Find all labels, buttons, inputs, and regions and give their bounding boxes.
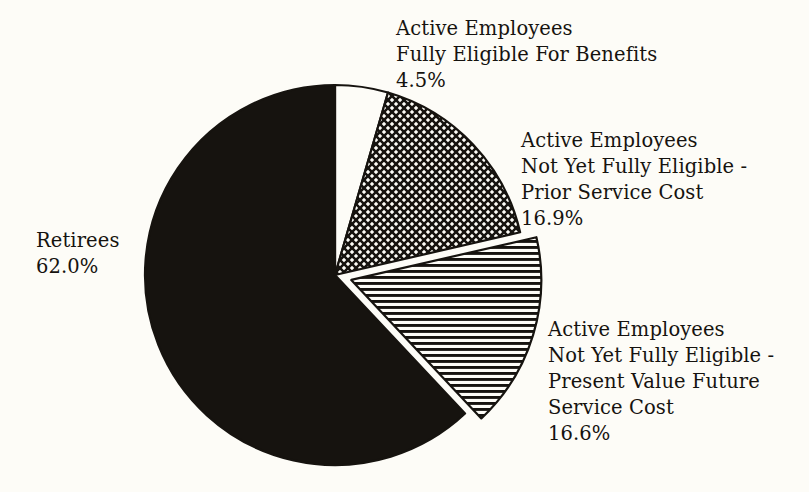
slice-label-prior-service-cost: Active Employees Not Yet Fully Eligible … <box>521 128 747 232</box>
slice-value: 4.5% <box>396 68 657 94</box>
slice-label-line: Prior Service Cost <box>521 180 747 206</box>
slice-label-line: Active Employees <box>521 128 747 154</box>
slice-label-retirees: Retirees 62.0% <box>36 228 120 280</box>
slice-label-line: Active Employees <box>396 16 657 42</box>
slice-label-line: Active Employees <box>548 317 774 343</box>
slice-value: 16.6% <box>548 421 774 447</box>
slice-label-line: Fully Eligible For Benefits <box>396 42 657 68</box>
slice-label-line: Service Cost <box>548 395 774 421</box>
slice-label-fully-eligible: Active Employees Fully Eligible For Bene… <box>396 16 657 94</box>
slice-label-line: Present Value Future <box>548 369 774 395</box>
slice-value: 16.9% <box>521 206 747 232</box>
slice-label-present-value-future-service-cost: Active Employees Not Yet Fully Eligible … <box>548 317 774 447</box>
slice-label-line: Not Yet Fully Eligible - <box>548 343 774 369</box>
pie-chart-page: Active Employees Fully Eligible For Bene… <box>0 0 809 492</box>
slice-label-line: Not Yet Fully Eligible - <box>521 154 747 180</box>
slice-label-line: Retirees <box>36 228 120 254</box>
slice-value: 62.0% <box>36 254 120 280</box>
